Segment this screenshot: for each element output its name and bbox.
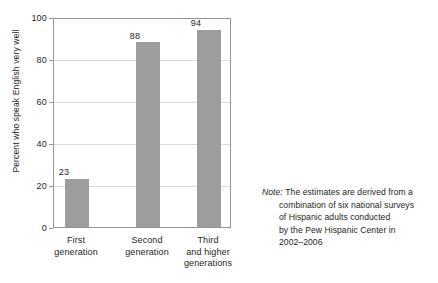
x-tick-label-line: and higher xyxy=(165,247,251,259)
note-first-line: Note: The estimates are derived from a xyxy=(262,186,434,199)
plot-area xyxy=(53,18,231,228)
y-tick-label-100: 100 xyxy=(21,13,47,23)
bar-value-first-generation: 23 xyxy=(44,167,84,177)
y-tick-label-40: 40 xyxy=(21,139,47,149)
note-line-text: combination of six national surveys xyxy=(262,199,434,212)
y-tick-label-0: 0 xyxy=(21,223,47,233)
bar-value-third-and-higher-generations: 94 xyxy=(176,18,216,28)
y-axis-title: Percent who speak English very well xyxy=(11,1,21,201)
bar-third-and-higher-generations xyxy=(197,30,221,227)
note-line-text: of Hispanic adults conducted xyxy=(262,211,434,224)
chart-note: Note: The estimates are derived from a c… xyxy=(262,186,434,249)
bar-first-generation xyxy=(65,179,89,227)
x-tick-label-line: generations xyxy=(165,258,251,270)
y-tick-label-60: 60 xyxy=(21,97,47,107)
bar-second-generation xyxy=(136,42,160,227)
y-tick-label-80: 80 xyxy=(21,55,47,65)
note-line-text: The estimates are derived from a xyxy=(285,187,413,197)
note-line-text: 2002–2006 xyxy=(262,236,434,249)
bar-value-second-generation: 88 xyxy=(115,31,155,41)
y-tick-mark-0 xyxy=(49,228,53,229)
x-tick-label-line: Third xyxy=(165,235,251,247)
y-tick-label-20: 20 xyxy=(21,181,47,191)
note-label: Note: xyxy=(262,187,283,197)
note-line-text: by the Pew Hispanic Center in xyxy=(262,224,434,237)
x-tick-label-third-and-higher-generations: Third and higher generations xyxy=(165,235,251,270)
